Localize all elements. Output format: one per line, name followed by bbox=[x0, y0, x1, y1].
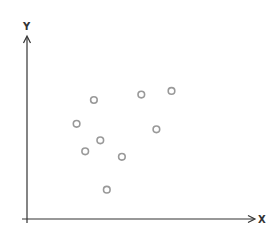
x-axis-label: X bbox=[258, 214, 266, 225]
y-axis-label: Y bbox=[22, 21, 31, 32]
data-points bbox=[73, 88, 175, 193]
data-point bbox=[119, 154, 126, 161]
data-point bbox=[153, 126, 160, 133]
data-point bbox=[82, 148, 89, 155]
data-point bbox=[73, 121, 80, 128]
scatter-chart: Y X bbox=[0, 0, 280, 238]
data-point bbox=[168, 88, 175, 95]
data-point bbox=[138, 91, 145, 98]
data-point bbox=[91, 97, 98, 104]
data-point bbox=[97, 137, 104, 144]
data-point bbox=[104, 186, 111, 193]
